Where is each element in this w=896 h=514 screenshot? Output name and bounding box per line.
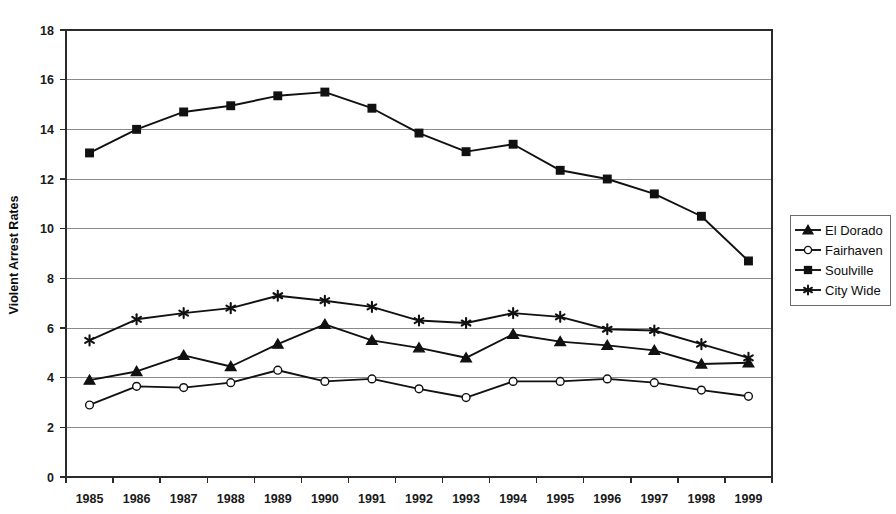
x-tick-label: 1994 xyxy=(499,492,527,506)
x-tick-label: 1996 xyxy=(593,492,621,506)
y-tick-label: 14 xyxy=(40,123,54,137)
data-point-marker xyxy=(274,366,282,374)
data-point-marker xyxy=(509,377,517,385)
x-tick-label: 1992 xyxy=(405,492,433,506)
y-axis-title: Violent Arrest Rates xyxy=(7,196,21,315)
plot-frame xyxy=(66,30,772,477)
legend-item-city-wide[interactable]: City Wide xyxy=(795,283,881,298)
data-point-marker xyxy=(604,175,612,183)
x-tick-label: 1986 xyxy=(123,492,151,506)
data-point-marker xyxy=(133,382,141,390)
legend-label: El Dorado xyxy=(825,223,883,238)
x-tick-label: 1991 xyxy=(358,492,386,506)
data-point-marker xyxy=(227,379,235,387)
series-fairhaven xyxy=(86,366,753,409)
x-tick-label: 1998 xyxy=(687,492,715,506)
y-tick-label: 4 xyxy=(47,371,54,385)
data-point-marker xyxy=(368,375,376,383)
data-point-marker xyxy=(805,267,812,274)
x-tick-label: 1993 xyxy=(452,492,480,506)
data-point-marker xyxy=(180,384,188,392)
y-axis-tick-labels: 024681012141618 xyxy=(40,24,54,485)
data-point-marker xyxy=(508,329,519,338)
data-point-marker xyxy=(227,102,235,110)
y-tick-label: 18 xyxy=(40,24,54,38)
y-tick-label: 8 xyxy=(47,272,54,286)
series-line xyxy=(90,92,749,261)
data-point-marker xyxy=(85,335,94,345)
legend-label: City Wide xyxy=(825,283,881,298)
data-point-marker xyxy=(462,148,470,156)
series-markers xyxy=(86,366,753,409)
data-point-marker xyxy=(556,167,564,175)
data-point-marker xyxy=(180,108,188,116)
data-point-marker xyxy=(86,401,94,409)
data-point-marker xyxy=(415,385,423,393)
data-point-marker xyxy=(603,375,611,383)
data-point-marker xyxy=(273,339,284,348)
data-series-group xyxy=(84,88,753,409)
data-point-marker xyxy=(509,140,516,148)
y-tick-label: 6 xyxy=(47,322,54,336)
data-point-marker xyxy=(698,213,706,221)
data-point-marker xyxy=(745,257,753,265)
x-tick-label: 1997 xyxy=(640,492,668,506)
series-soulville xyxy=(86,88,752,264)
data-point-marker xyxy=(650,379,658,387)
y-tick-label: 0 xyxy=(47,471,54,485)
x-tick-label: 1995 xyxy=(546,492,574,506)
x-tick-label: 1987 xyxy=(170,492,198,506)
y-tick-label: 16 xyxy=(40,73,54,87)
chart-container: 024681012141618 198519861987198819891990… xyxy=(0,0,896,514)
data-point-marker xyxy=(86,149,94,157)
data-point-marker xyxy=(321,377,329,385)
y-tick-label: 2 xyxy=(47,421,54,435)
legend-label: Fairhaven xyxy=(825,243,883,258)
x-tick-label: 1989 xyxy=(264,492,292,506)
x-tick-label: 1985 xyxy=(76,492,104,506)
x-tick-label: 1988 xyxy=(217,492,245,506)
data-point-marker xyxy=(745,392,753,400)
x-tick-label: 1990 xyxy=(311,492,339,506)
data-point-marker xyxy=(415,129,423,137)
data-point-marker xyxy=(321,88,329,96)
data-point-marker xyxy=(556,377,564,385)
data-point-marker xyxy=(804,246,811,253)
data-point-marker xyxy=(462,394,470,402)
data-point-marker xyxy=(368,104,376,112)
data-point-marker xyxy=(178,350,189,359)
data-point-marker xyxy=(698,386,706,394)
legend-label: Soulville xyxy=(825,263,873,278)
data-point-marker xyxy=(133,126,141,134)
x-tick-label: 1999 xyxy=(735,492,763,506)
x-axis-tick-labels: 1985198619871988198919901991199219931994… xyxy=(76,492,763,506)
data-point-marker xyxy=(320,319,331,328)
line-chart: 024681012141618 198519861987198819891990… xyxy=(0,0,896,514)
y-tick-label: 12 xyxy=(40,173,54,187)
y-tick-label: 10 xyxy=(40,222,54,236)
data-point-marker xyxy=(274,92,282,100)
legend: El DoradoFairhavenSoulvilleCity Wide xyxy=(790,215,890,305)
series-markers xyxy=(86,88,752,264)
data-point-marker xyxy=(651,190,659,198)
